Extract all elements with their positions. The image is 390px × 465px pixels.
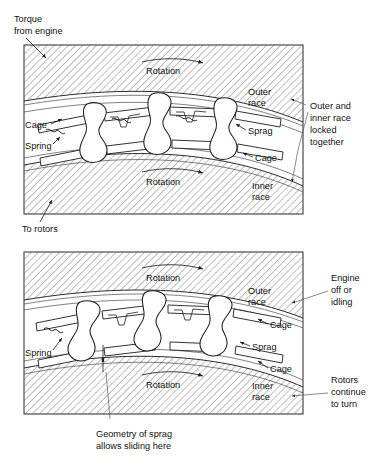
rotation-label-inner-bottom: Rotation xyxy=(146,380,180,390)
to-rotors-label: To rotors xyxy=(22,224,58,234)
sprag-label-top-right: Sprag xyxy=(248,126,273,136)
cage-label-bottom-upper: Cage xyxy=(270,320,292,330)
panel-top: Rotation Rotation Outer race Inner race … xyxy=(24,45,303,214)
engine-off-label-line1: Engine xyxy=(331,273,360,283)
locked-label-line3: locked xyxy=(310,125,337,135)
rotors-turn-label-line1: Rotors xyxy=(331,375,358,385)
rotation-label-outer-top: Rotation xyxy=(146,66,180,76)
spring-label-bottom: Spring xyxy=(25,348,52,358)
outer-race-label-bottom-line1: Outer xyxy=(248,286,271,296)
torque-label-line1: Torque xyxy=(14,14,42,24)
rotors-turn-label-line3: to turn xyxy=(331,399,357,409)
inner-race-label-bottom-line2: race xyxy=(252,392,270,402)
cage-label-bottom-lower: Cage xyxy=(270,364,292,374)
spring-label-top-left: Spring xyxy=(25,141,52,151)
sprag-clutch-diagram: Rotation Rotation Outer race Inner race … xyxy=(0,0,390,465)
outer-race-label-top-line1: Outer xyxy=(248,87,271,97)
rotation-label-inner-top: Rotation xyxy=(146,177,180,187)
locked-label-line1: Outer and xyxy=(310,101,351,111)
inner-race-label-top-line2: race xyxy=(252,192,270,202)
sprag-label-bottom-right: Sprag xyxy=(252,342,277,352)
sliding-caption-line1: Geometry of sprag xyxy=(96,429,172,439)
outer-race-label-top-line2: race xyxy=(248,98,266,108)
rotors-turn-label-line2: continue xyxy=(331,387,366,397)
cage-label-top-right: Cage xyxy=(255,153,277,163)
locked-label-line2: inner race xyxy=(310,113,351,123)
locked-label-line4: together xyxy=(310,137,344,147)
inner-race-label-top-line1: Inner xyxy=(252,181,273,191)
outer-race-label-bottom-line2: race xyxy=(248,297,266,307)
engine-off-label-line2: off or xyxy=(331,285,352,295)
cage-label-top-left: Cage xyxy=(25,120,47,130)
figure-canvas: Rotation Rotation Outer race Inner race … xyxy=(0,0,390,465)
engine-off-label-line3: idling xyxy=(331,297,352,307)
panel-bottom: Rotation Rotation Outer race Inner race … xyxy=(24,252,303,414)
inner-race-label-bottom-line1: Inner xyxy=(252,381,273,391)
torque-label-line2: from engine xyxy=(14,26,63,36)
sliding-caption-line2: allows sliding here xyxy=(96,441,171,451)
rotation-label-outer-bottom: Rotation xyxy=(146,273,180,283)
